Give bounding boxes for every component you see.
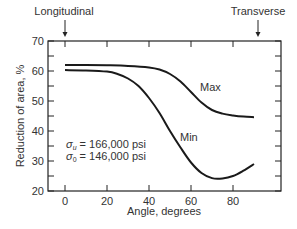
axis-tick-labels: 020406080203040506070 bbox=[32, 35, 239, 207]
longitudinal-label: Longitudinal bbox=[34, 5, 93, 17]
longitudinal-arrow-icon bbox=[63, 32, 68, 37]
sigma-0-annotation: σ0 = 146,000 psi bbox=[66, 150, 146, 163]
min-curve bbox=[65, 70, 254, 179]
x-axis-title: Angle, degrees bbox=[127, 205, 201, 217]
x-tick-label: 80 bbox=[227, 195, 239, 207]
y-tick-label: 20 bbox=[32, 185, 44, 197]
sigma-u-value: = 166,000 psi bbox=[77, 138, 146, 150]
x-tick-label: 20 bbox=[101, 195, 113, 207]
max-label: Max bbox=[200, 81, 221, 93]
y-axis-title: Reduction of area, % bbox=[14, 64, 26, 167]
min-label: Min bbox=[180, 131, 198, 143]
x-tick-label: 0 bbox=[62, 195, 68, 207]
sigma-0-value: = 146,000 psi bbox=[77, 150, 146, 162]
y-tick-label: 70 bbox=[32, 35, 44, 47]
y-tick-label: 60 bbox=[32, 65, 44, 77]
transverse-arrow-icon bbox=[256, 32, 261, 37]
y-tick-label: 40 bbox=[32, 125, 44, 137]
reduction-of-area-chart: 020406080203040506070 Max Min Longitudin… bbox=[0, 0, 297, 229]
y-tick-label: 50 bbox=[32, 95, 44, 107]
max-curve bbox=[65, 65, 254, 117]
transverse-label: Transverse bbox=[231, 5, 286, 17]
y-tick-label: 30 bbox=[32, 155, 44, 167]
